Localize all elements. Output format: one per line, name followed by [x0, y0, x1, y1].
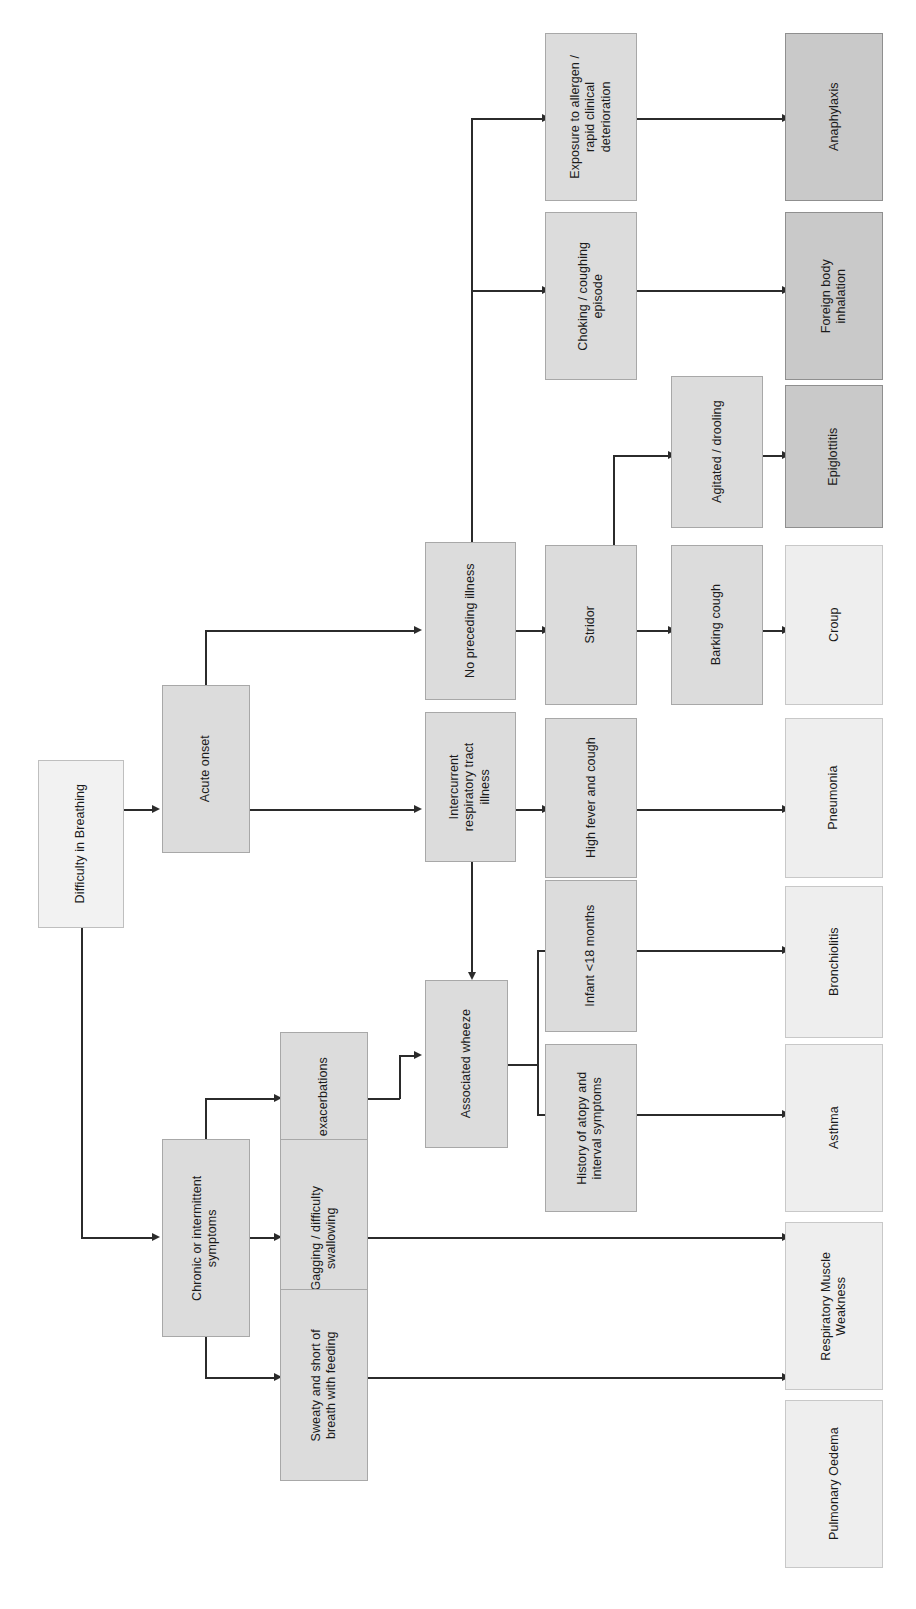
- outcome-pulmonary-oedema[interactable]: Pulmonary Oedema: [785, 1400, 883, 1568]
- node-label: Barking cough: [709, 584, 724, 665]
- edge-chronic-to-gagging: [250, 1237, 277, 1239]
- edge-nopreceding-branch-v: [471, 118, 473, 542]
- node-label: Gagging / difficulty swallowing: [309, 1186, 340, 1291]
- node-label: Asthma: [826, 1107, 841, 1150]
- edge-acuteexac-to-wheeze-v: [399, 1055, 401, 1099]
- edge-nopreceding-to-exposure: [471, 118, 545, 120]
- edge-stridor-branch-v: [613, 455, 615, 552]
- edge-acuteexac-to-wheeze-h1: [368, 1098, 400, 1100]
- arrowhead-associated-wheeze-side: [414, 1051, 422, 1059]
- outcome-epiglottitis[interactable]: Epiglottitis: [785, 385, 883, 528]
- node-label: Difficulty in Breathing: [73, 784, 88, 904]
- node-acute-onset[interactable]: Acute onset: [162, 685, 250, 853]
- edge-acuteonset-to-intercurrent: [250, 809, 416, 811]
- node-associated-wheeze[interactable]: Associated wheeze: [425, 980, 508, 1148]
- edge-exposure-to-anaphylaxis: [637, 118, 785, 120]
- node-exposure-to-allergen[interactable]: Exposure to allergen / rapid clinical de…: [545, 33, 637, 201]
- node-label: Chronic or intermittent symptoms: [191, 1175, 222, 1300]
- edge-acuteonset-to-nopreceding: [205, 630, 417, 632]
- node-label: Respiratory Muscle Weakness: [819, 1252, 850, 1361]
- node-label: Intercurrent respiratory tract illness: [448, 743, 494, 832]
- edge-sweaty-to-pulm-oedema: [368, 1377, 785, 1379]
- node-label: Exposure to allergen / rapid clinical de…: [568, 55, 614, 179]
- edge-highfever-to-pneumonia: [637, 809, 785, 811]
- node-infant-under-18-months[interactable]: Infant <18 months: [545, 880, 637, 1032]
- node-label: Foreign body inhalation: [819, 259, 850, 333]
- outcome-croup[interactable]: Croup: [785, 545, 883, 705]
- node-label: Croup: [826, 608, 841, 643]
- edge-root-to-chronic: [81, 1237, 155, 1239]
- node-label: Associated wheeze: [459, 1009, 474, 1118]
- node-label: History of atopy and interval symptoms: [576, 1071, 607, 1184]
- edge-stridor-to-barking: [637, 630, 671, 632]
- arrowhead-acute-onset: [152, 805, 160, 813]
- node-label: High fever and cough: [583, 738, 598, 859]
- flowchart-canvas: Difficulty in Breathing Acute onset Chro…: [0, 0, 916, 1609]
- arrowhead-intercurrent: [414, 805, 422, 813]
- edge-stridor-to-agitated: [613, 455, 671, 457]
- node-intercurrent-respiratory-tract-illness[interactable]: Intercurrent respiratory tract illness: [425, 712, 516, 862]
- arrowhead-no-preceding-illness: [414, 626, 422, 634]
- node-label: Bronchiolitis: [826, 928, 841, 997]
- node-label: Choking / coughing episode: [576, 242, 607, 351]
- node-no-preceding-illness[interactable]: No preceding illness: [425, 542, 516, 700]
- node-label: Epiglottitis: [826, 427, 841, 485]
- node-agitated-drooling[interactable]: Agitated / drooling: [671, 376, 763, 528]
- edge-acuteonset-up-v: [205, 631, 207, 685]
- node-label: Pneumonia: [826, 766, 841, 830]
- node-label: Pulmonary Oedema: [826, 1428, 841, 1541]
- node-sweaty-short-of-breath-with-feeding[interactable]: Sweaty and short of breath with feeding: [280, 1289, 368, 1481]
- node-label: No preceding illness: [463, 564, 478, 679]
- node-label: Acute onset: [198, 735, 213, 802]
- node-chronic-or-intermittent-symptoms[interactable]: Chronic or intermittent symptoms: [162, 1139, 250, 1337]
- outcome-anaphylaxis[interactable]: Anaphylaxis: [785, 33, 883, 201]
- edge-intercurrent-to-high-fever: [516, 809, 545, 811]
- edge-nopreceding-to-choking: [471, 290, 545, 292]
- edge-chronic-to-acute-exac: [205, 1098, 277, 1100]
- node-choking-coughing-episode[interactable]: Choking / coughing episode: [545, 212, 637, 380]
- edge-nopreceding-to-stridor: [516, 630, 545, 632]
- node-label: Stridor: [583, 606, 598, 644]
- arrowhead-chronic: [152, 1233, 160, 1241]
- edge-wheeze-stem: [508, 1064, 538, 1066]
- node-label: Sweaty and short of breath with feeding: [309, 1329, 340, 1441]
- node-label: Agitated / drooling: [709, 401, 724, 504]
- edge-chronic-to-sweaty: [205, 1377, 277, 1379]
- node-label: Infant <18 months: [583, 905, 598, 1007]
- outcome-bronchiolitis[interactable]: Bronchiolitis: [785, 886, 883, 1038]
- edge-gagging-to-resp-muscle: [368, 1237, 785, 1239]
- arrowhead-associated-wheeze-top: [468, 972, 476, 980]
- edge-atopy-to-asthma: [637, 1114, 785, 1116]
- node-label: Anaphylaxis: [826, 83, 841, 152]
- edge-infant-to-bronchiolitis: [637, 950, 785, 952]
- node-high-fever-and-cough[interactable]: High fever and cough: [545, 718, 637, 878]
- outcome-asthma[interactable]: Asthma: [785, 1044, 883, 1212]
- outcome-respiratory-muscle-weakness[interactable]: Respiratory Muscle Weakness: [785, 1222, 883, 1390]
- node-barking-cough[interactable]: Barking cough: [671, 545, 763, 705]
- node-history-of-atopy-and-interval-symptoms[interactable]: History of atopy and interval symptoms: [545, 1044, 637, 1212]
- node-stridor[interactable]: Stridor: [545, 545, 637, 705]
- edge-choking-to-foreign-body: [637, 290, 785, 292]
- outcome-foreign-body-inhalation[interactable]: Foreign body inhalation: [785, 212, 883, 380]
- node-difficulty-in-breathing[interactable]: Difficulty in Breathing: [38, 760, 124, 928]
- outcome-pneumonia[interactable]: Pneumonia: [785, 718, 883, 878]
- edge-intercurrent-to-wheeze-v: [471, 861, 473, 977]
- edge-wheeze-branch-v: [537, 950, 539, 1115]
